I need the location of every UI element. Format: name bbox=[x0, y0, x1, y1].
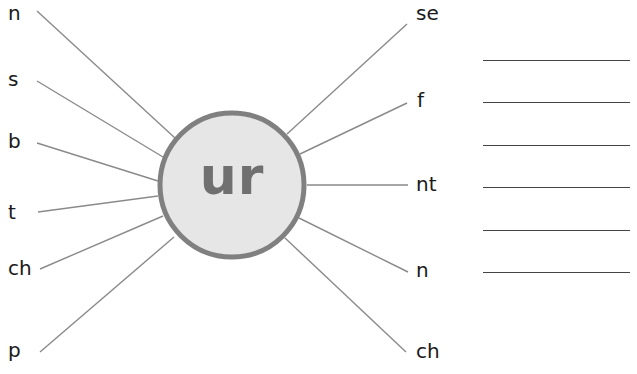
left-letter-s: s bbox=[8, 69, 18, 89]
spoke-p bbox=[40, 237, 174, 352]
spoke-ch-right bbox=[285, 238, 406, 352]
left-letter-n: n bbox=[8, 3, 21, 23]
spoke-f bbox=[300, 103, 407, 154]
right-letter-ch: ch bbox=[416, 341, 440, 361]
answer-line-6[interactable] bbox=[483, 272, 630, 273]
right-letter-n: n bbox=[416, 260, 429, 280]
answer-line-3[interactable] bbox=[483, 145, 630, 146]
spoke-n-right bbox=[299, 218, 408, 272]
spoke-n-left bbox=[37, 11, 175, 138]
spoke-se bbox=[287, 24, 407, 134]
answer-line-2[interactable] bbox=[483, 102, 630, 103]
left-letter-ch: ch bbox=[8, 258, 32, 278]
left-letter-t: t bbox=[8, 202, 16, 222]
answer-line-4[interactable] bbox=[483, 187, 630, 188]
answer-line-1[interactable] bbox=[483, 60, 630, 61]
spoke-b bbox=[37, 143, 158, 181]
spoke-s bbox=[37, 81, 163, 157]
center-letters: ur bbox=[158, 150, 306, 202]
right-letter-nt: nt bbox=[416, 174, 437, 194]
answer-line-5[interactable] bbox=[483, 230, 630, 231]
spoke-t bbox=[38, 196, 158, 212]
left-letter-p: p bbox=[8, 340, 21, 360]
right-letter-se: se bbox=[416, 3, 439, 23]
right-letter-f: f bbox=[417, 90, 424, 110]
spoke-ch-left bbox=[40, 216, 163, 269]
left-letter-b: b bbox=[8, 131, 21, 151]
